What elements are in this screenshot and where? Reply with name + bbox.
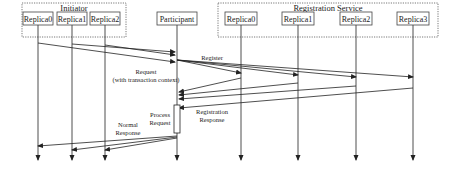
participant-label-p: Participant: [160, 15, 195, 24]
participant-label-r3: Replica3: [399, 15, 427, 24]
normal-response-label-1: Normal: [118, 121, 138, 128]
message-p-to-i0: [38, 136, 177, 146]
registration-response-label-1: Registration: [196, 108, 229, 115]
participant-label-r2: Replica2: [342, 15, 370, 24]
message-p-to-i1: [72, 137, 177, 150]
process-request-label-1: Process: [150, 111, 170, 118]
request-context-label: (with transaction context): [113, 76, 180, 84]
register-label: Register: [201, 54, 223, 61]
message-r3-to-p: [179, 88, 413, 108]
participant-label-r1: Replica1: [284, 15, 312, 24]
lifelines: [38, 18, 413, 160]
group-label-registration: Registration Service: [293, 3, 362, 13]
sequence-diagram: InitiatorRegistration Service Replica0Re…: [0, 0, 458, 172]
group-label-initiator: Initiator: [60, 3, 88, 13]
message-r1-to-p: [179, 83, 298, 95]
message-arrows: [38, 43, 413, 150]
message-i0-to-p: [38, 43, 175, 62]
process-request-activation-bar: [174, 105, 180, 133]
participant-label-r0: Replica0: [227, 15, 255, 24]
participant-label-i0: Replica0: [24, 15, 52, 24]
participant-boxes: Replica0Replica1Replica2ParticipantRepli…: [23, 12, 429, 25]
process-request-label-2: Request: [150, 119, 171, 126]
participant-label-i1: Replica1: [58, 15, 86, 24]
request-label: Request: [136, 68, 157, 75]
message-p-to-r2: [177, 60, 356, 77]
normal-response-label-2: Response: [116, 129, 141, 136]
participant-label-i2: Replica2: [91, 15, 119, 24]
registration-response-label-2: Response: [200, 116, 225, 123]
message-p-to-i2: [105, 138, 177, 150]
